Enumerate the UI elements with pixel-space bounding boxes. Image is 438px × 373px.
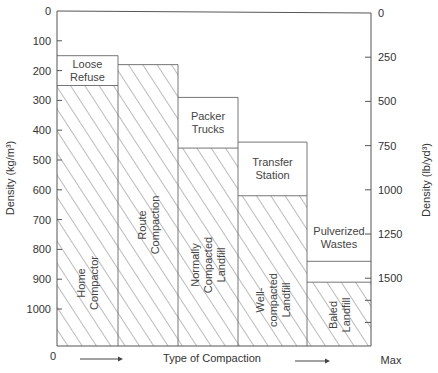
hatched-label-line: Landfill xyxy=(280,283,292,318)
hatched-label-5: BaledLandfill xyxy=(327,298,352,333)
hatched-label-line: Compacted xyxy=(202,237,214,293)
box-label-line: Pulverized xyxy=(313,225,364,237)
box-label-1: LooseRefuse xyxy=(70,58,105,83)
right-tick-label: 500 xyxy=(378,95,396,107)
left-tick-label: 900 xyxy=(33,273,51,285)
hatched-label-line: Normally xyxy=(189,243,201,287)
left-tick-label: 300 xyxy=(33,94,51,106)
right-tick-label: 1500 xyxy=(378,272,402,284)
box-label-line: Station xyxy=(255,169,289,181)
right-tick-label: 750 xyxy=(378,140,396,152)
hatched-label-line: Compactor xyxy=(88,256,100,310)
hatched-label-line: Landfill xyxy=(340,298,352,333)
left-tick-label: 400 xyxy=(33,124,51,136)
box-label-4: TransferStation xyxy=(252,156,293,181)
left-tick-label: 800 xyxy=(33,243,51,255)
box-label-3: PackerTrucks xyxy=(191,110,226,135)
left-tick-label: 700 xyxy=(33,214,51,226)
box-label-line: Refuse xyxy=(70,71,105,83)
left-tick-label: 200 xyxy=(33,65,51,77)
right-tick-label: 1000 xyxy=(378,184,402,196)
x-arrow-right-head xyxy=(325,359,330,364)
right-tick-label: 0 xyxy=(378,7,384,19)
compaction-density-chart: 0100200300400500600700800900100002505007… xyxy=(0,0,438,373)
x-end-label: Max xyxy=(381,354,402,366)
left-tick-label: 100 xyxy=(33,35,51,47)
left-tick-label: 600 xyxy=(33,184,51,196)
hatched-label-line: compacted xyxy=(267,273,279,327)
bars-layer xyxy=(57,56,371,346)
hatched-label-line: Landfill xyxy=(215,248,227,283)
x-axis-title: Type of Compaction xyxy=(163,352,261,364)
hatched-label-line: Baled xyxy=(327,301,339,329)
box-label-line: Loose xyxy=(73,58,103,70)
top-border xyxy=(57,11,371,13)
left-tick-label: 500 xyxy=(33,154,51,166)
hatched-label-line: Well- xyxy=(254,287,266,312)
left-tick-label: 0 xyxy=(45,5,51,17)
hatched-label-line: Home xyxy=(75,268,87,297)
box-label-line: Trucks xyxy=(192,123,225,135)
box-label-line: Packer xyxy=(191,110,226,122)
box-label-5: PulverizedWastes xyxy=(313,225,364,250)
hatched-label-line: Route xyxy=(136,210,148,239)
right-tick-label: 1250 xyxy=(378,228,402,240)
right-tick-label: 250 xyxy=(378,51,396,63)
x-arrow-left-head xyxy=(118,357,123,362)
box-label-line: Wastes xyxy=(321,238,358,250)
y-axis-title-left: Density (kg/m³) xyxy=(4,141,16,216)
left-tick-label: 1000 xyxy=(27,303,51,315)
x-start-label: 0 xyxy=(50,350,56,362)
y-axis-title-right: Density (lb/yd³) xyxy=(420,143,432,217)
hatched-label-line: Compaction xyxy=(149,196,161,255)
box-label-line: Transfer xyxy=(252,156,293,168)
